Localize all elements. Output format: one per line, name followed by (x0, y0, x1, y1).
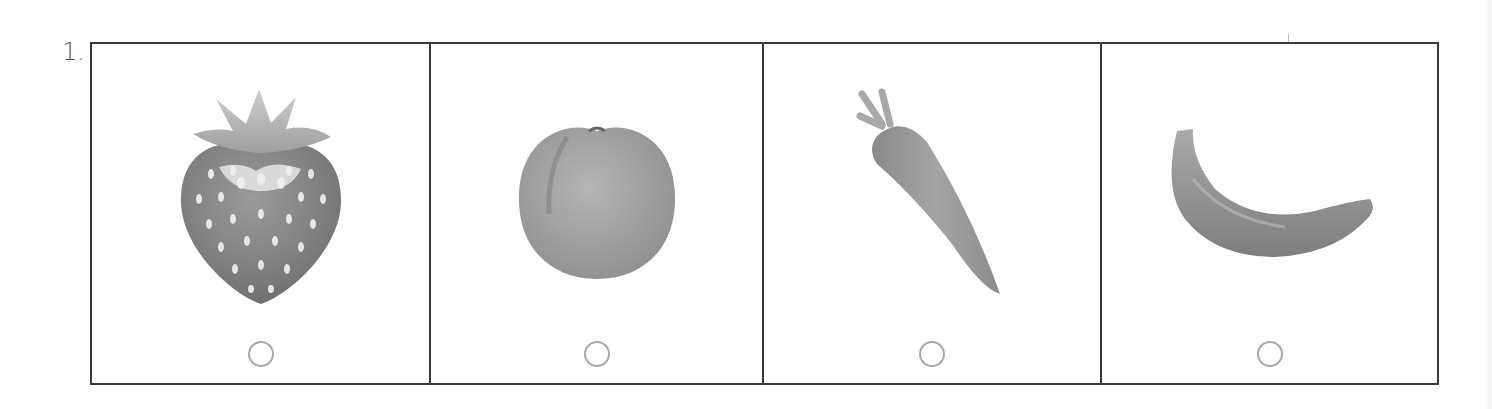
option-cell-carrot[interactable] (762, 44, 1100, 383)
peach-image (431, 64, 762, 334)
question-number: 1. (62, 38, 85, 66)
option-radio-strawberry[interactable] (248, 341, 274, 367)
option-cell-banana[interactable] (1100, 44, 1437, 383)
page-edge-shadow (1484, 0, 1492, 409)
option-cell-strawberry[interactable] (92, 44, 429, 383)
carrot-image (764, 64, 1100, 334)
option-radio-banana[interactable] (1257, 341, 1283, 367)
option-radio-carrot[interactable] (919, 341, 945, 367)
option-radio-peach[interactable] (584, 341, 610, 367)
answer-options-grid (90, 42, 1439, 385)
option-cell-peach[interactable] (429, 44, 762, 383)
banana-image (1102, 64, 1437, 334)
strawberry-image (92, 64, 429, 334)
